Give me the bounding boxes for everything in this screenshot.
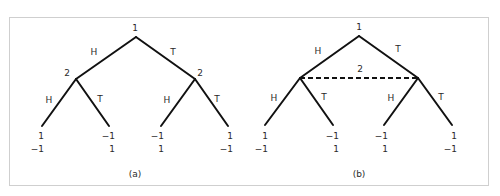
payoff-a-2-p1: −1 — [102, 131, 115, 141]
payoff-a-4-p2: −1 — [220, 144, 233, 154]
payoff-b-3-p2: 1 — [382, 144, 388, 154]
edge-a-right-t — [195, 79, 228, 126]
node-a-left-player: 2 — [64, 68, 70, 78]
game-tree-a: 1 2 2 H T H T H T 1 −1 −1 1 −1 1 1 −1 (a… — [31, 23, 233, 179]
payoff-a-1-p2: −1 — [31, 144, 44, 154]
payoff-b-1-p1: 1 — [262, 131, 268, 141]
payoff-a-3-p1: −1 — [151, 131, 164, 141]
game-tree-b: 1 2 H T H T H T 1 −1 −1 1 −1 1 1 −1 (b) — [255, 22, 457, 179]
payoff-a-3-p2: 1 — [158, 144, 164, 154]
information-set-player: 2 — [357, 64, 363, 74]
edge-a-root-h — [76, 37, 136, 79]
payoff-a-1-p1: 1 — [38, 131, 44, 141]
payoff-b-2-p2: 1 — [333, 144, 339, 154]
node-b-root-player: 1 — [356, 22, 362, 32]
edge-label-b-left-t: T — [320, 92, 327, 102]
caption-b: (b) — [353, 169, 366, 179]
payoff-a-4-p1: 1 — [227, 131, 233, 141]
edge-label-b-root-t: T — [394, 44, 401, 54]
edge-label-a-right-t: T — [213, 94, 220, 104]
edge-b-root-h — [300, 36, 359, 78]
edge-label-a-left-h: H — [46, 95, 53, 105]
edge-label-a-right-h: H — [164, 95, 171, 105]
edge-b-right-t — [418, 78, 452, 125]
node-a-right-player: 2 — [197, 68, 203, 78]
caption-a: (a) — [129, 169, 142, 179]
node-a-root-player: 1 — [132, 23, 138, 33]
payoff-b-2-p1: −1 — [326, 131, 339, 141]
payoff-b-3-p1: −1 — [375, 131, 388, 141]
payoff-b-4-p2: −1 — [444, 144, 457, 154]
edge-a-left-t — [76, 79, 109, 126]
edge-label-a-root-h: H — [91, 47, 98, 57]
edge-b-root-t — [359, 36, 418, 78]
payoff-b-4-p1: 1 — [451, 131, 457, 141]
edge-label-a-left-t: T — [96, 94, 103, 104]
edge-a-root-t — [136, 37, 195, 79]
edge-label-b-right-h: H — [388, 93, 395, 103]
edge-label-b-right-t: T — [437, 92, 444, 102]
edge-label-b-root-h: H — [315, 46, 322, 56]
payoff-a-2-p2: 1 — [109, 144, 115, 154]
edge-b-left-t — [300, 78, 333, 125]
edge-label-a-root-t: T — [169, 47, 176, 57]
game-trees-figure: 1 2 2 H T H T H T 1 −1 −1 1 −1 1 1 −1 (a… — [0, 0, 500, 196]
payoff-b-1-p2: −1 — [255, 144, 268, 154]
edge-label-b-left-h: H — [271, 93, 278, 103]
